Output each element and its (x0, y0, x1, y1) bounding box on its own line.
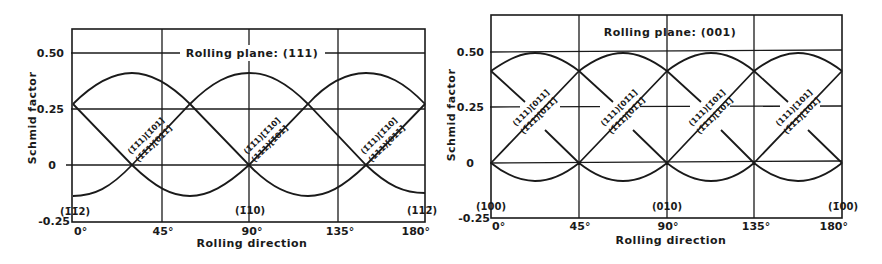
xtick-right-45: 45° (570, 220, 591, 233)
chart-left-111: Rolling plane: (111) 0.50 0.25 0 -0.25 S… (26, 29, 437, 250)
ytick-left-0: 0 (48, 159, 56, 172)
ytick-right-025: 0.25 (457, 101, 484, 114)
dir-left-0: (1̄1̄2) (60, 206, 90, 217)
chart-title-left: Rolling plane: (111) (186, 47, 318, 60)
gridline-y-050-right (490, 50, 842, 52)
figure: Rolling plane: (111) 0.50 0.25 0 -0.25 S… (0, 0, 882, 264)
xtick-left-180: 180° (402, 225, 430, 238)
xtick-right-135: 135° (742, 220, 770, 233)
dir-right-90: (010) (652, 201, 682, 212)
chart-title-right: Rolling plane: (001) (604, 26, 736, 39)
chart-right-001: Rolling plane: (001) 0.50 0.25 0 -0.25 S… (445, 15, 858, 247)
ylabel-right: Schmid factor (445, 69, 458, 162)
dir-left-90: (1̄10) (235, 205, 265, 216)
dir-left-180: (112̄) (407, 205, 437, 216)
ytick-right-neg025: -0.25 (458, 212, 490, 225)
slip-label-left-3: (1̄1̄1)[1̄10] (111)[011] (359, 116, 407, 164)
xlabel-left: Rolling direction (197, 237, 308, 250)
slip-label-left-1: (1̄1̄1)[1̄01] (1̄1̄1)[011] (126, 116, 174, 164)
dir-right-0: (100) (476, 201, 506, 212)
ytick-right-0: 0 (466, 157, 474, 170)
ylabel-left: Schmid factor (26, 72, 39, 165)
xlabel-right: Rolling direction (616, 234, 727, 247)
xtick-left-0: 0° (74, 225, 87, 238)
xtick-left-135: 135° (326, 225, 354, 238)
ytick-right-050: 0.50 (457, 46, 484, 59)
dir-right-180: (1̄00) (828, 201, 858, 212)
xtick-left-45: 45° (153, 225, 174, 238)
xtick-right-0: 0° (492, 220, 505, 233)
ytick-left-025: 0.25 (37, 103, 64, 116)
ytick-left-050: 0.50 (37, 47, 64, 60)
xtick-right-180: 180° (820, 220, 848, 233)
xtick-right-90: 90° (658, 220, 679, 233)
